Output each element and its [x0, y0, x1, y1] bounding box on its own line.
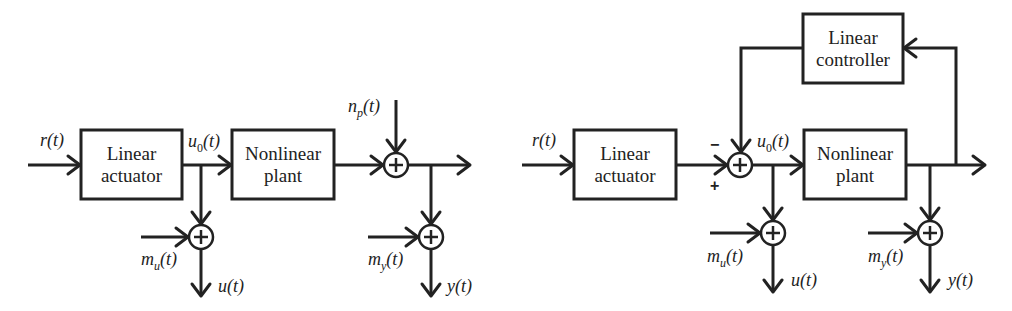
- controller-label-line2: controller: [816, 49, 891, 70]
- plant-label-line1: Nonlinear: [245, 143, 322, 164]
- measured-input-signal-label: u(t): [791, 270, 817, 291]
- actuator-output-signal-label: u0(t): [188, 131, 220, 155]
- plant-label-line1: Nonlinear: [817, 143, 894, 164]
- actuator-label-line2: actuator: [101, 165, 163, 186]
- minus-sign: −: [710, 136, 719, 153]
- open-loop-diagram: r(t) Linear actuator u0(t) mu(t) u(t) No…: [28, 96, 472, 297]
- reference-signal-label: r(t): [532, 130, 556, 151]
- feedback-wire: [904, 48, 956, 165]
- controller-label-line1: Linear: [828, 27, 878, 48]
- actuator-label-line2: actuator: [594, 165, 656, 186]
- measured-input-signal-label: u(t): [218, 276, 244, 297]
- plus-sign: +: [710, 177, 719, 194]
- actuator-label-line1: Linear: [600, 143, 650, 164]
- output-noise-signal-label: my(t): [368, 249, 403, 273]
- output-noise-signal-label: my(t): [868, 246, 903, 270]
- process-noise-signal-label: np(t): [348, 96, 380, 120]
- input-noise-signal-label: mu(t): [707, 246, 743, 270]
- closed-loop-diagram: r(t) Linear actuator − + Linear controll…: [522, 14, 985, 292]
- reference-signal-label: r(t): [40, 130, 64, 151]
- block-diagrams: r(t) Linear actuator u0(t) mu(t) u(t) No…: [0, 0, 1012, 311]
- actuator-label-line1: Linear: [107, 143, 157, 164]
- plant-label-line2: plant: [264, 165, 303, 186]
- measured-output-signal-label: y(t): [445, 276, 472, 297]
- plant-label-line2: plant: [836, 165, 875, 186]
- actuator-output-signal-label: u0(t): [757, 131, 789, 155]
- measured-output-signal-label: y(t): [946, 270, 973, 291]
- input-noise-signal-label: mu(t): [141, 249, 177, 273]
